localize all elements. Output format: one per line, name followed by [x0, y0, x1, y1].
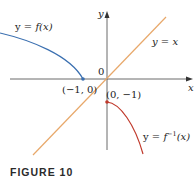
x-axis-arrow-icon: [186, 77, 193, 82]
x-axis-label: x: [188, 82, 194, 93]
point-neg1-0-label: (−1, 0): [62, 84, 97, 95]
y-axis-label: y: [97, 8, 104, 19]
identity-label: y = x: [151, 36, 178, 47]
figure-caption: FIGURE 10: [10, 166, 73, 178]
origin-label: 0: [98, 66, 104, 77]
point-0-neg1: [105, 100, 109, 104]
f-label: y = f(x): [14, 21, 53, 32]
inverse-function-graph: y x 0 y = f(x) y = x (−1, 0) (0, −1) y =…: [0, 0, 196, 183]
y-axis-arrow-icon: [105, 11, 110, 18]
f-inverse-label: y = f−1(x): [142, 130, 190, 142]
f-curve: [0, 33, 83, 79]
point-neg1-0: [81, 77, 85, 81]
point-0-neg1-label: (0, −1): [106, 89, 141, 100]
f-inverse-curve: [107, 102, 143, 154]
